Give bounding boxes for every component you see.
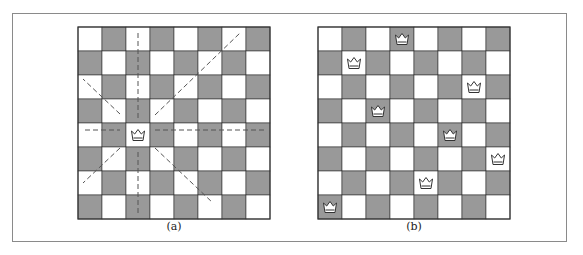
board-square bbox=[126, 27, 150, 51]
board-square bbox=[438, 27, 462, 51]
board-square bbox=[102, 51, 126, 75]
board-square bbox=[366, 51, 390, 75]
board-square bbox=[438, 195, 462, 219]
board-square bbox=[78, 195, 102, 219]
board-square bbox=[390, 147, 414, 171]
board-square bbox=[390, 51, 414, 75]
board-square bbox=[150, 75, 174, 99]
board-square bbox=[246, 27, 270, 51]
board-square bbox=[366, 147, 390, 171]
board-square bbox=[390, 75, 414, 99]
board-square bbox=[390, 171, 414, 195]
board-square bbox=[342, 171, 366, 195]
board-square bbox=[414, 147, 438, 171]
board-square bbox=[246, 147, 270, 171]
board-square bbox=[246, 123, 270, 147]
board-square bbox=[438, 147, 462, 171]
board-square bbox=[102, 75, 126, 99]
board-square bbox=[414, 51, 438, 75]
board-square bbox=[150, 195, 174, 219]
board-square bbox=[486, 27, 510, 51]
board-b bbox=[318, 27, 510, 219]
board-square bbox=[414, 75, 438, 99]
board-square bbox=[366, 27, 390, 51]
board-square bbox=[102, 99, 126, 123]
board-square bbox=[150, 99, 174, 123]
board-square bbox=[150, 171, 174, 195]
board-square bbox=[438, 75, 462, 99]
board-square bbox=[366, 75, 390, 99]
board-square bbox=[246, 51, 270, 75]
board-square bbox=[198, 171, 222, 195]
board-square bbox=[414, 27, 438, 51]
board-square bbox=[318, 99, 342, 123]
board-square bbox=[414, 123, 438, 147]
board-square bbox=[222, 195, 246, 219]
board-square bbox=[198, 147, 222, 171]
board-square bbox=[462, 51, 486, 75]
board-square bbox=[126, 195, 150, 219]
board-square bbox=[486, 99, 510, 123]
board-square bbox=[102, 27, 126, 51]
board-square bbox=[78, 147, 102, 171]
board-square bbox=[78, 51, 102, 75]
board-square bbox=[246, 195, 270, 219]
board-square bbox=[198, 27, 222, 51]
board-square bbox=[318, 123, 342, 147]
board-square bbox=[174, 75, 198, 99]
board-square bbox=[390, 99, 414, 123]
board-square bbox=[438, 51, 462, 75]
board-square bbox=[150, 147, 174, 171]
board-square bbox=[390, 195, 414, 219]
board-square bbox=[174, 147, 198, 171]
board-square bbox=[150, 51, 174, 75]
board-square bbox=[174, 123, 198, 147]
board-square bbox=[414, 99, 438, 123]
board-square bbox=[174, 195, 198, 219]
board-a bbox=[78, 27, 270, 219]
board-square bbox=[174, 51, 198, 75]
board-square bbox=[102, 123, 126, 147]
board-square bbox=[102, 195, 126, 219]
chessboards-figure bbox=[0, 0, 583, 255]
board-square bbox=[126, 99, 150, 123]
caption-b: (b) bbox=[384, 220, 444, 233]
board-square bbox=[318, 51, 342, 75]
board-square bbox=[390, 123, 414, 147]
board-square bbox=[222, 51, 246, 75]
board-square bbox=[222, 123, 246, 147]
board-square bbox=[342, 123, 366, 147]
board-square bbox=[246, 99, 270, 123]
board-square bbox=[318, 75, 342, 99]
board-square bbox=[414, 195, 438, 219]
board-square bbox=[486, 51, 510, 75]
board-square bbox=[438, 99, 462, 123]
board-square bbox=[462, 147, 486, 171]
board-square bbox=[486, 75, 510, 99]
board-square bbox=[174, 99, 198, 123]
board-square bbox=[318, 171, 342, 195]
board-square bbox=[246, 75, 270, 99]
board-square bbox=[342, 147, 366, 171]
board-square bbox=[126, 171, 150, 195]
board-square bbox=[462, 99, 486, 123]
board-square bbox=[198, 51, 222, 75]
board-square bbox=[174, 171, 198, 195]
board-square bbox=[126, 147, 150, 171]
board-square bbox=[222, 171, 246, 195]
board-square bbox=[462, 171, 486, 195]
board-square bbox=[174, 27, 198, 51]
board-square bbox=[198, 99, 222, 123]
board-square bbox=[318, 147, 342, 171]
board-square bbox=[486, 171, 510, 195]
board-square bbox=[102, 147, 126, 171]
board-square bbox=[222, 99, 246, 123]
board-square bbox=[150, 123, 174, 147]
board-square bbox=[78, 75, 102, 99]
board-square bbox=[150, 27, 174, 51]
caption-a: (a) bbox=[144, 220, 204, 233]
board-square bbox=[246, 171, 270, 195]
board-square bbox=[486, 195, 510, 219]
board-square bbox=[102, 171, 126, 195]
board-square bbox=[78, 171, 102, 195]
